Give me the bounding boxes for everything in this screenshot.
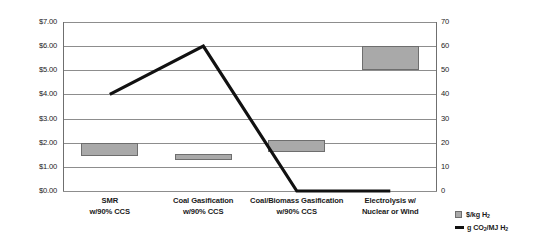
plot-area (63, 22, 437, 191)
legend-label-cost: $/kg H2 (466, 210, 490, 219)
right-axis-tick-label: 30 (441, 115, 449, 123)
right-axis-tick-label: 60 (441, 42, 449, 50)
left-axis-tick-label: $4.00 (39, 90, 57, 98)
category-labels: SMRw/90% CCSCoal Gasificationw/90% CCSCo… (63, 196, 437, 228)
legend-item-emissions: g CO2/MJ H2 (455, 223, 508, 232)
right-axis-tick-label: 40 (441, 90, 449, 98)
chart-container: $0.00$1.00$2.00$3.00$4.00$5.00$6.00$7.00… (0, 0, 542, 251)
legend-label-emissions: g CO2/MJ H2 (467, 223, 508, 232)
left-axis-tick-label: $7.00 (39, 18, 57, 26)
left-axis-tick-label: $0.00 (39, 187, 57, 195)
legend-line-swatch-icon (455, 226, 464, 229)
category-label: Electrolysis w/Nuclear or Wind (336, 196, 446, 217)
line-series (63, 22, 437, 191)
category-label-line: Electrolysis w/ (336, 196, 446, 207)
left-axis-tick-label: $6.00 (39, 42, 57, 50)
right-axis-tick-label: 50 (441, 66, 449, 74)
right-axis-tick-label: 0 (441, 187, 445, 195)
right-axis-tick-label: 70 (441, 18, 449, 26)
right-axis-tick-label: 10 (441, 163, 449, 171)
left-axis-tick-label: $2.00 (39, 139, 57, 147)
legend-item-cost: $/kg H2 (455, 210, 508, 219)
right-axis-tick-label: 20 (441, 139, 449, 147)
chart-legend: $/kg H2 g CO2/MJ H2 (455, 210, 508, 236)
left-axis-tick-label: $3.00 (39, 115, 57, 123)
legend-box-swatch-icon (455, 211, 462, 218)
category-label-line: Nuclear or Wind (336, 207, 446, 218)
left-axis-tick-label: $1.00 (39, 163, 57, 171)
left-axis-tick-label: $5.00 (39, 66, 57, 74)
